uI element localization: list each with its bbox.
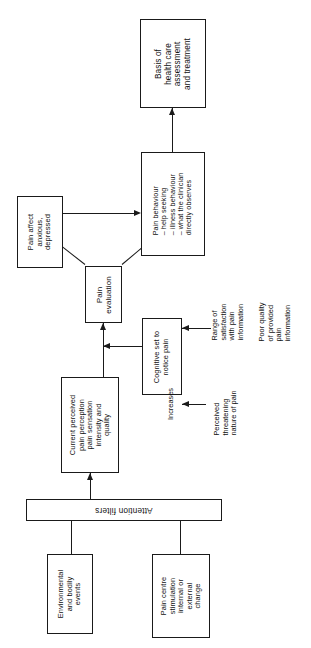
annotation-range-of-satisfaction: Range of satisfaction with pain informat… xyxy=(211,304,245,341)
node-pain-behaviour: Pain behaviour – help seeking – illness … xyxy=(141,152,205,256)
arrowhead-perceivedthreatening-to-increases xyxy=(182,401,189,407)
arrowhead-junction-to-painevaluation xyxy=(100,323,106,330)
arrowhead-attentionfilters-to-currentperceived xyxy=(87,473,93,480)
node-pain-behaviour-label: Pain behaviour – help seeking – illness … xyxy=(152,173,194,236)
node-environmental-and-bodily-events-label: Environmental and bodily events xyxy=(57,570,83,619)
connector-painaffect-to-painbehaviour xyxy=(63,213,134,214)
connector-paincentre-to-attentionfilters xyxy=(180,521,181,554)
node-basis-of-health-care: Basis of health care assessment and trea… xyxy=(140,19,206,108)
node-pain-affect: Pain affect anxious, depressed xyxy=(17,196,63,268)
node-current-perceived-pain: Current perceived pain perception pain s… xyxy=(61,377,119,473)
annotation-increases: Increases xyxy=(167,388,176,420)
node-cognitive-set: Cognitive set to notice pain xyxy=(142,318,182,395)
arrowhead-rangeofsatisfaction-to-cognitiveset xyxy=(182,325,189,331)
arrowhead-cognitiveset-to-painevaluation xyxy=(103,343,110,349)
node-current-perceived-pain-label: Current perceived pain perception pain s… xyxy=(69,395,112,455)
node-pain-affect-label: Pain affect anxious, depressed xyxy=(27,214,53,250)
annotation-perceived-threatening: Perceived threatening nature of pain xyxy=(213,390,239,435)
annotation-poor-quality: Poor quality of provided pain informatio… xyxy=(258,302,292,341)
node-pain-evaluation: Pain evaluation xyxy=(85,266,122,323)
diagram-canvas: Basis of health care assessment and trea… xyxy=(0,0,311,648)
connector-currentperceived-to-junction xyxy=(103,346,104,379)
node-cognitive-set-label: Cognitive set to notice pain xyxy=(153,330,170,383)
arrowhead-painaffect-to-painbehaviour xyxy=(134,210,141,216)
node-environmental-and-bodily-events: Environmental and bodily events xyxy=(47,554,93,634)
connector-environmental-to-attentionfilters xyxy=(71,521,72,554)
node-pain-centre-stimulation-label: Pain centre stimulation internal or exte… xyxy=(160,577,203,616)
node-attention-filters-label: Attention filters xyxy=(95,506,153,515)
arrowhead-painbehaviour-to-basis xyxy=(169,108,175,115)
node-basis-of-health-care-label: Basis of health care assessment and trea… xyxy=(154,38,192,90)
node-attention-filters: Attention filters xyxy=(26,499,222,521)
node-pain-centre-stimulation: Pain centre stimulation internal or exte… xyxy=(152,554,210,638)
node-pain-evaluation-label: Pain evaluation xyxy=(94,276,113,313)
